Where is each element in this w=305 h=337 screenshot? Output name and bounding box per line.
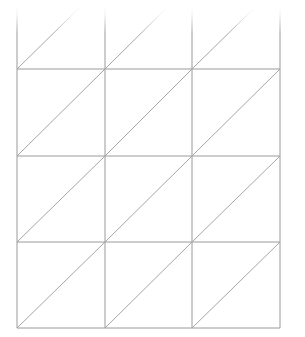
- diagonal-r2c3: [192, 69, 280, 156]
- diagonal-r4c1: [17, 242, 105, 328]
- grid-diagram: [0, 0, 305, 337]
- diagonal-r3c1: [17, 156, 105, 242]
- diagonal-r1c1: [17, 0, 105, 69]
- vertical-grid-lines: [17, 2, 280, 328]
- cell-diagonals: [17, 0, 280, 328]
- diagonal-r2c1: [17, 69, 105, 156]
- figure-root: [0, 0, 305, 337]
- diagonal-r1c2: [105, 0, 192, 69]
- diagonal-r1c3: [192, 0, 280, 69]
- diagonal-r4c2: [105, 242, 192, 328]
- diagonal-r3c3: [192, 156, 280, 242]
- diagonal-r4c3: [192, 242, 280, 328]
- diagonal-r3c2: [105, 156, 192, 242]
- diagonal-r2c2: [105, 69, 192, 156]
